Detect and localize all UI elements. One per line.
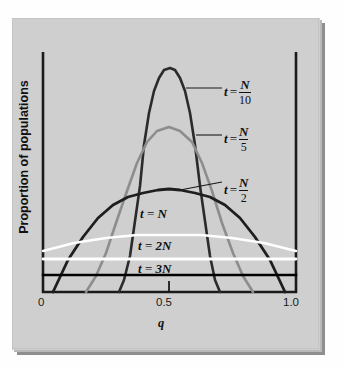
axis-spines bbox=[42, 52, 297, 293]
x-axis-title: q bbox=[158, 316, 164, 331]
label-equals: = bbox=[228, 182, 239, 197]
figure-page: Proportion of populations 0 0.5 1.0 q t=… bbox=[0, 0, 344, 367]
label-value: 3N bbox=[155, 261, 171, 276]
label-variable: t bbox=[138, 238, 142, 253]
fraction-numerator: N bbox=[239, 78, 251, 91]
x-tick-label-0: 0 bbox=[38, 296, 44, 308]
label-equals: = bbox=[145, 238, 152, 253]
fraction-N-over-10: N 10 bbox=[239, 78, 251, 106]
curve-label-t-eq-N: t = N bbox=[140, 206, 167, 222]
drift-distribution-chart bbox=[0, 0, 344, 367]
label-equals: = bbox=[228, 84, 239, 99]
fraction-numerator: N bbox=[239, 125, 248, 138]
label-variable: t bbox=[138, 261, 142, 276]
leader-lines bbox=[180, 88, 222, 190]
curve-label-t-eq-3N: t = 3N bbox=[138, 261, 171, 277]
fraction-numerator: N bbox=[239, 176, 248, 189]
y-axis-title: Proportion of populations bbox=[17, 57, 31, 257]
label-variable: t bbox=[140, 206, 144, 221]
fraction-denominator: 2 bbox=[239, 192, 248, 204]
curve-label-t-eq-N-over-2: t= N 2 bbox=[224, 177, 248, 205]
fraction-denominator: 10 bbox=[239, 94, 251, 106]
fraction-N-over-2: N 2 bbox=[239, 176, 248, 204]
curve-label-t-eq-N-over-10: t= N 10 bbox=[224, 79, 251, 107]
label-equals: = bbox=[147, 206, 154, 221]
fraction-denominator: 5 bbox=[239, 141, 248, 153]
label-value: 2N bbox=[155, 238, 171, 253]
x-tick-label-1.0: 1.0 bbox=[283, 296, 299, 308]
curve-label-t-eq-2N: t = 2N bbox=[138, 238, 171, 254]
label-equals: = bbox=[145, 261, 152, 276]
curve-label-t-eq-N-over-5: t= N 5 bbox=[224, 126, 248, 154]
fraction-N-over-5: N 5 bbox=[239, 125, 248, 153]
label-equals: = bbox=[228, 131, 239, 146]
label-value: N bbox=[157, 206, 166, 221]
x-tick-label-0.5: 0.5 bbox=[156, 296, 172, 308]
